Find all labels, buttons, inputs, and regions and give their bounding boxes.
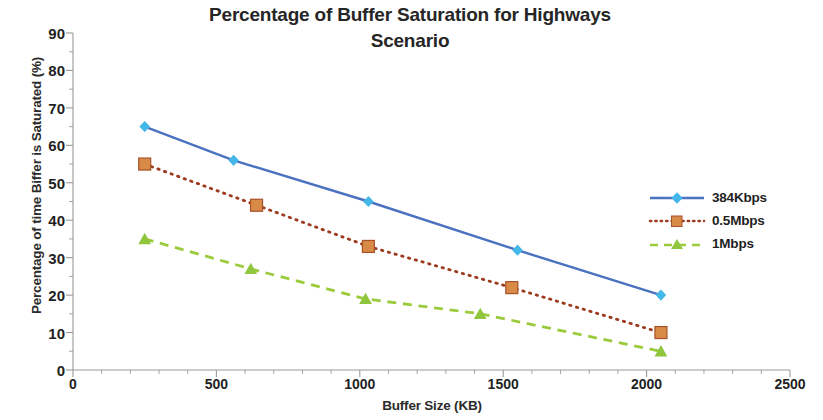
y-tick-label: 10 [19, 324, 65, 341]
x-tick-label: 0 [38, 376, 108, 392]
chart-title-line-1: Percentage of Buffer Saturation for High… [209, 4, 611, 25]
y-tick-label: 20 [19, 287, 65, 304]
legend-item-05mbps: 0.5Mbps [648, 209, 818, 232]
chart-container: Percentage of Buffer Saturation for High… [0, 0, 823, 420]
chart-title-line-2: Scenario [371, 30, 450, 51]
y-tick-label: 60 [19, 137, 65, 154]
series-0-5mbps [139, 158, 667, 338]
chart-legend: 384Kbps 0.5Mbps 1Mbps [648, 186, 818, 255]
y-tick-label: 40 [19, 212, 65, 229]
legend-label-384kbps: 384Kbps [712, 190, 767, 205]
y-tick-label: 90 [19, 25, 65, 42]
y-tick-label: 50 [19, 174, 65, 191]
x-tick-label: 1000 [325, 376, 395, 392]
legend-swatch-384kbps [648, 190, 706, 206]
y-tick-label: 70 [19, 99, 65, 116]
series-1mbps [138, 233, 667, 357]
x-tick-label: 2000 [612, 376, 682, 392]
x-tick-label: 1500 [468, 376, 538, 392]
x-axis-title: Buffer Size (KB) [73, 398, 791, 413]
legend-swatch-05mbps [648, 213, 706, 229]
chart-title: Percentage of Buffer Saturation for High… [130, 2, 690, 54]
legend-label-05mbps: 0.5Mbps [712, 213, 765, 228]
series-384kbps [139, 121, 666, 301]
x-tick-label: 500 [181, 376, 251, 392]
y-tick-label: 80 [19, 62, 65, 79]
x-tick-label: 2500 [755, 376, 823, 392]
legend-item-384kbps: 384Kbps [648, 186, 818, 209]
legend-label-1mbps: 1Mbps [712, 236, 754, 251]
legend-swatch-1mbps [648, 236, 706, 252]
y-tick-label: 30 [19, 249, 65, 266]
legend-item-1mbps: 1Mbps [648, 232, 818, 255]
